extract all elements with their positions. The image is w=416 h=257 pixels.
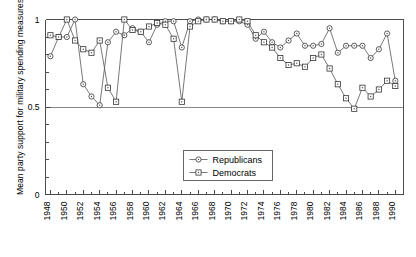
chart-plot-area: 00.5119481950195219541956195819601962196… (0, 0, 416, 257)
marker-center-democrats-1967 (206, 19, 207, 20)
x-tick-label-14: 1976 (272, 201, 282, 220)
marker-center-democrats-1986 (362, 87, 363, 88)
marker-center-democrats-1988 (378, 89, 379, 90)
marker-center-democrats-1955 (107, 87, 108, 88)
marker-center-republicans-1988 (378, 49, 379, 50)
marker-center-republicans-1983 (337, 52, 338, 53)
x-tick-label-3: 1954 (92, 201, 102, 220)
x-tick-label-0: 1948 (42, 201, 52, 220)
x-tick-label-2: 1952 (75, 201, 85, 220)
marker-center-republicans-1956 (115, 31, 116, 32)
marker-center-republicans-1979 (304, 45, 305, 46)
marker-center-republicans-1952 (83, 84, 84, 85)
marker-center-democrats-1962 (165, 24, 166, 25)
marker-center-democrats-1980 (312, 57, 313, 58)
marker-center-republicans-1954 (99, 105, 100, 106)
marker-center-democrats-1990 (395, 85, 396, 86)
marker-center-democrats-1966 (198, 21, 199, 22)
marker-center-republicans-1955 (107, 42, 108, 43)
marker-center-republicans-1984 (345, 45, 346, 46)
marker-center-republicans-1973 (255, 38, 256, 39)
marker-center-democrats-1977 (288, 64, 289, 65)
marker-center-democrats-1959 (140, 31, 141, 32)
marker-center-democrats-1957 (124, 19, 125, 20)
marker-center-democrats-1954 (99, 40, 100, 41)
marker-center-democrats-1953 (91, 52, 92, 53)
marker-center-republicans-1977 (288, 40, 289, 41)
x-tick-label-15: 1978 (289, 201, 299, 220)
marker-center-republicans-1957 (124, 35, 125, 36)
marker-center-republicans-1965 (189, 21, 190, 22)
x-tick-label-20: 1988 (371, 201, 381, 220)
marker-center-democrats-1965 (189, 26, 190, 27)
marker-center-republicans-1978 (296, 33, 297, 34)
marker-center-democrats-1987 (370, 96, 371, 97)
marker-center-democrats-1971 (239, 19, 240, 20)
marker-center-democrats-1969 (222, 21, 223, 22)
marker-center-republicans-1980 (312, 45, 313, 46)
marker-center-democrats-1978 (296, 63, 297, 64)
marker-center-republicans-1989 (386, 33, 387, 34)
x-tick-label-4: 1956 (108, 201, 118, 220)
x-tick-label-1: 1950 (59, 201, 69, 220)
marker-center-democrats-1984 (345, 98, 346, 99)
legend-marker-center-republicans (198, 159, 199, 160)
x-tick-label-10: 1968 (207, 201, 217, 220)
y-tick-label-2: 1 (35, 15, 40, 25)
legend-label-democrats: Democrats (213, 168, 257, 178)
marker-center-democrats-1964 (181, 101, 182, 102)
x-tick-label-16: 1980 (305, 201, 315, 220)
x-tick-label-21: 1990 (387, 201, 397, 220)
marker-center-democrats-1975 (271, 47, 272, 48)
marker-center-democrats-1950 (66, 19, 67, 20)
marker-center-democrats-1949 (58, 36, 59, 37)
marker-center-democrats-1979 (304, 66, 305, 67)
marker-center-democrats-1982 (329, 68, 330, 69)
marker-center-republicans-1976 (280, 47, 281, 48)
marker-center-democrats-1983 (337, 84, 338, 85)
marker-center-democrats-1974 (263, 42, 264, 43)
marker-center-democrats-1952 (83, 49, 84, 50)
marker-center-republicans-1950 (66, 36, 67, 37)
x-tick-label-7: 1962 (157, 201, 167, 220)
marker-center-democrats-1960 (148, 26, 149, 27)
marker-center-republicans-1982 (329, 28, 330, 29)
marker-center-democrats-1973 (255, 35, 256, 36)
marker-center-republicans-1962 (165, 21, 166, 22)
legend-label-republicans: Republicans (213, 155, 263, 165)
marker-center-democrats-1981 (321, 54, 322, 55)
marker-center-democrats-1948 (50, 35, 51, 36)
series-line-republicans (50, 20, 395, 106)
marker-center-democrats-1985 (354, 108, 355, 109)
marker-center-democrats-1970 (230, 21, 231, 22)
marker-center-democrats-1958 (132, 29, 133, 30)
marker-center-republicans-1951 (74, 19, 75, 20)
y-tick-label-0: 0 (35, 190, 40, 200)
x-tick-label-8: 1964 (174, 201, 184, 220)
x-tick-label-19: 1986 (354, 201, 364, 220)
marker-center-democrats-1972 (247, 21, 248, 22)
chart-figure: Mean party support for military spending… (0, 0, 416, 257)
marker-center-republicans-1964 (181, 47, 182, 48)
x-tick-label-5: 1958 (125, 201, 135, 220)
x-tick-label-11: 1970 (223, 201, 233, 220)
marker-center-republicans-1972 (247, 24, 248, 25)
y-tick-label-1: 0.5 (28, 102, 40, 112)
x-tick-label-13: 1974 (256, 201, 266, 220)
legend-marker-center-democrats (198, 172, 199, 173)
x-tick-label-18: 1984 (338, 201, 348, 220)
marker-center-democrats-1968 (214, 19, 215, 20)
marker-center-democrats-1961 (156, 22, 157, 23)
marker-center-democrats-1951 (74, 40, 75, 41)
marker-center-republicans-1990 (395, 80, 396, 81)
marker-center-democrats-1956 (115, 101, 116, 102)
marker-center-republicans-1963 (173, 21, 174, 22)
marker-center-democrats-1963 (173, 38, 174, 39)
x-tick-label-12: 1972 (239, 201, 249, 220)
marker-center-republicans-1985 (354, 45, 355, 46)
x-tick-label-6: 1960 (141, 201, 151, 220)
x-tick-label-9: 1966 (190, 201, 200, 220)
x-tick-label-17: 1982 (322, 201, 332, 220)
marker-center-republicans-1953 (91, 96, 92, 97)
marker-center-republicans-1960 (148, 42, 149, 43)
